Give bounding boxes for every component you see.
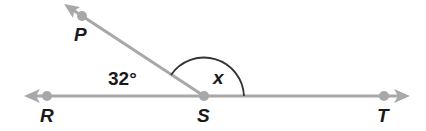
label-P: P <box>74 24 87 45</box>
point-R <box>42 91 52 101</box>
angle-arc-x <box>171 58 244 96</box>
angle-label-x: x <box>212 67 225 88</box>
point-P <box>77 11 87 21</box>
diagram-svg: P R S T 32° x <box>0 0 426 131</box>
ray-SP <box>70 8 204 96</box>
point-S <box>199 91 209 101</box>
label-T: T <box>377 105 390 126</box>
angle-diagram: P R S T 32° x <box>0 0 426 131</box>
point-T <box>379 91 389 101</box>
angle-label-32: 32° <box>108 68 137 89</box>
label-S: S <box>197 105 210 126</box>
label-R: R <box>40 105 54 126</box>
